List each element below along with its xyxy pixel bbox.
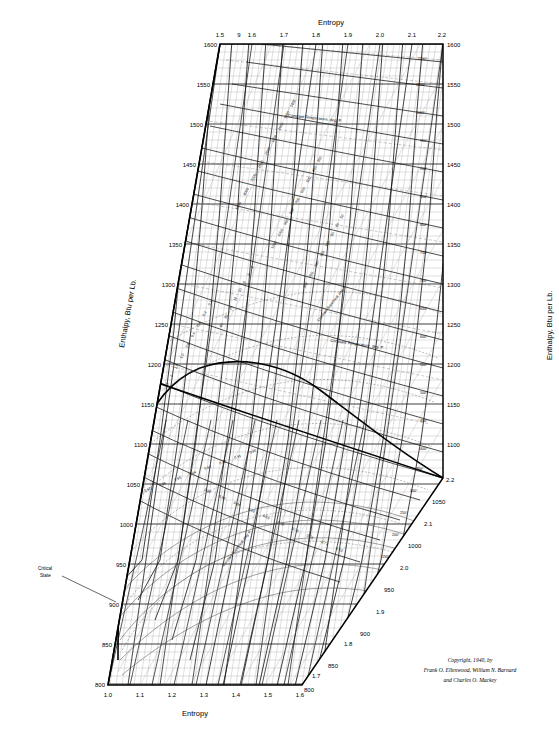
critical-state-label: Critical State xyxy=(38,566,116,602)
svg-text:1.8: 1.8 xyxy=(344,641,353,647)
right-axis-ticks: 1600 1550 1500 1450 1400 1350 1300 1250 … xyxy=(447,42,461,448)
svg-text:1550: 1550 xyxy=(197,82,211,88)
left-axis-title: Enthalpy, Btu per Lb. xyxy=(117,278,138,348)
svg-text:650°: 650° xyxy=(420,307,428,311)
svg-text:Critical: Critical xyxy=(38,566,52,571)
svg-text:1450: 1450 xyxy=(447,162,461,168)
svg-text:2.0: 2.0 xyxy=(400,565,409,571)
svg-text:1150: 1150 xyxy=(447,402,461,408)
svg-text:350°: 350° xyxy=(416,467,424,471)
svg-text:800: 800 xyxy=(304,687,315,693)
svg-text:1500: 1500 xyxy=(190,122,204,128)
svg-text:1050: 1050 xyxy=(127,482,141,488)
svg-text:600°: 600° xyxy=(420,335,428,339)
svg-text:1.2: 1.2 xyxy=(168,692,177,698)
svg-text:1.4: 1.4 xyxy=(232,692,241,698)
svg-text:850: 850 xyxy=(102,642,113,648)
svg-text:1350: 1350 xyxy=(169,242,183,248)
svg-text:Enthalpy, Btu per Lb.: Enthalpy, Btu per Lb. xyxy=(545,291,554,361)
svg-text:200°: 200° xyxy=(392,533,400,537)
svg-text:250°: 250° xyxy=(400,511,408,515)
svg-text:and Charles O. Mackey: and Charles O. Mackey xyxy=(443,677,497,683)
svg-text:1.5: 1.5 xyxy=(216,32,225,38)
svg-text:1.8: 1.8 xyxy=(312,32,321,38)
svg-text:2.0: 2.0 xyxy=(376,32,385,38)
svg-text:1000: 1000 xyxy=(120,522,134,528)
svg-text:800°: 800° xyxy=(420,223,428,227)
svg-text:1100: 1100 xyxy=(134,442,148,448)
svg-text:0.99: 0.99 xyxy=(114,498,122,504)
svg-text:1000: 1000 xyxy=(408,543,422,549)
svg-text:Copyright, 1940, by: Copyright, 1940, by xyxy=(448,657,493,663)
svg-text:1450: 1450 xyxy=(183,162,197,168)
mollier-chart: 55004000 30002500 20001800 16001500 1400… xyxy=(0,0,559,741)
svg-text:1400: 1400 xyxy=(176,202,190,208)
svg-text:1600: 1600 xyxy=(447,42,461,48)
top-axis-ticks: 1.5 1.6 1.7 1.8 1.9 2.0 2.1 2.2 9 xyxy=(216,32,447,38)
svg-text:1150: 1150 xyxy=(141,402,155,408)
svg-text:1350: 1350 xyxy=(447,242,461,248)
svg-text:900°: 900° xyxy=(420,167,428,171)
svg-text:2.2: 2.2 xyxy=(438,32,447,38)
svg-text:950°: 950° xyxy=(420,139,428,143)
svg-text:1200: 1200 xyxy=(148,362,162,368)
svg-text:1050: 1050 xyxy=(432,499,446,505)
svg-text:State: State xyxy=(40,573,51,578)
svg-text:1300: 1300 xyxy=(162,282,176,288)
bottom-axis-title: Entropy xyxy=(182,709,208,718)
top-axis-title: Entropy xyxy=(318,18,344,27)
svg-text:950: 950 xyxy=(116,562,127,568)
svg-text:1050°: 1050° xyxy=(416,83,426,87)
svg-text:1100: 1100 xyxy=(447,442,461,448)
svg-text:1.7: 1.7 xyxy=(312,673,321,679)
bottom-axis-ticks: 1.0 1.1 1.2 1.3 1.4 1.5 1.6 xyxy=(104,692,305,698)
svg-text:1.9: 1.9 xyxy=(376,609,385,615)
svg-text:1200: 1200 xyxy=(447,362,461,368)
svg-text:950: 950 xyxy=(384,587,395,593)
copyright-block: Copyright, 1940, by Frank O. Ellenwood, … xyxy=(423,657,517,683)
svg-text:1.6: 1.6 xyxy=(248,32,257,38)
svg-text:850°: 850° xyxy=(420,195,428,199)
svg-text:500°: 500° xyxy=(420,391,428,395)
svg-text:0.98: 0.98 xyxy=(129,492,137,498)
svg-text:1300: 1300 xyxy=(447,282,461,288)
svg-text:9: 9 xyxy=(237,32,241,38)
svg-text:1.3: 1.3 xyxy=(200,692,209,698)
svg-text:1400: 1400 xyxy=(447,202,461,208)
svg-text:300°: 300° xyxy=(410,489,418,493)
svg-text:900: 900 xyxy=(109,602,120,608)
svg-text:900: 900 xyxy=(360,631,371,637)
svg-text:1.5: 1.5 xyxy=(264,692,273,698)
svg-text:2.2: 2.2 xyxy=(446,477,455,483)
right-axis-title: Enthalpy, Btu per Lb. xyxy=(545,291,554,361)
svg-text:1250: 1250 xyxy=(155,322,169,328)
svg-text:1550: 1550 xyxy=(447,82,461,88)
svg-text:700°: 700° xyxy=(420,279,428,283)
svg-text:Frank O. Ellenwood, William N.: Frank O. Ellenwood, William N. Barnard xyxy=(423,667,517,673)
svg-text:1.1: 1.1 xyxy=(136,692,145,698)
svg-text:1.9: 1.9 xyxy=(344,32,353,38)
svg-text:850: 850 xyxy=(328,663,339,669)
svg-text:1.7: 1.7 xyxy=(280,32,289,38)
svg-text:750°: 750° xyxy=(420,251,428,255)
svg-text:2.1: 2.1 xyxy=(424,521,433,527)
svg-text:1000°: 1000° xyxy=(416,111,426,115)
svg-text:800: 800 xyxy=(95,682,106,688)
svg-text:1600: 1600 xyxy=(204,42,218,48)
svg-text:1250: 1250 xyxy=(447,322,461,328)
svg-text:1.0: 1.0 xyxy=(104,692,113,698)
svg-text:400°: 400° xyxy=(420,447,428,451)
svg-text:550°: 550° xyxy=(420,363,428,367)
svg-text:1500: 1500 xyxy=(447,122,461,128)
chart-svg: 55004000 30002500 20001800 16001500 1400… xyxy=(0,0,559,741)
svg-text:1100°: 1100° xyxy=(418,57,428,61)
svg-text:450°: 450° xyxy=(420,419,428,423)
svg-text:Enthalpy, Btu per Lb.: Enthalpy, Btu per Lb. xyxy=(117,278,138,348)
svg-text:2.1: 2.1 xyxy=(408,32,417,38)
